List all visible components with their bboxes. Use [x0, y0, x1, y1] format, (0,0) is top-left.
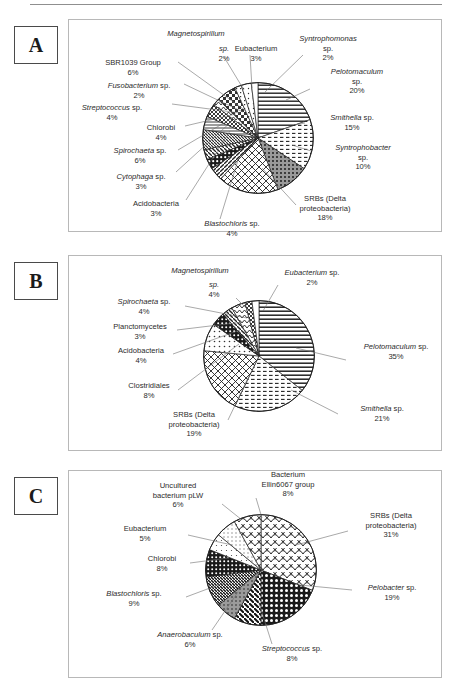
label-eubacterium-b: Eubacterium sp. 2% — [266, 268, 358, 287]
panel-letter-b: B — [14, 262, 58, 300]
label-streptococcus-c: Streptococcus sp. 8% — [240, 644, 344, 663]
label-magnetospirillum-b: Magnetospirillum — [148, 266, 252, 276]
label-srbs-a: SRBs (Delta proteobacteria) 18% — [284, 194, 366, 223]
label-pelotomaculum-a: Pelotomaculum sp. 20% — [308, 67, 406, 96]
label-spirochaeta-a: Spirochaeta sp. 6% — [100, 146, 180, 165]
label-srbs-c: SRBs (Delta proteobacteria) 31% — [344, 511, 438, 540]
label-smithella-a: Smithella sp. 15% — [311, 113, 393, 132]
label-smithella-b: Smithella sp. 21% — [340, 404, 424, 423]
pie-chart-a — [196, 76, 320, 200]
label-fusobacterium-a: Fusobacterium sp. 2% — [92, 81, 186, 100]
label-ellin6067-c: Bacterium Ellin6067 group 8% — [232, 470, 344, 499]
panel-letter-a: A — [14, 26, 58, 64]
label-cytophaga-a: Cytophaga sp. 3% — [104, 172, 178, 191]
label-srbs-b: SRBs (Delta proteobacteria) 19% — [148, 410, 240, 439]
label-syntrophobacter-a: Syntrophobacter sp. 10% — [312, 143, 414, 172]
label-magnetospirillum-b-value: sp. 4% — [196, 280, 232, 299]
label-acidobacteria-a: Acidobacteria 3% — [121, 199, 191, 218]
label-anaerobaculum-c: Anaerobaculum sp. 6% — [138, 630, 242, 649]
label-clostridiales-b: Clostridiales 8% — [112, 381, 186, 400]
label-chlorobi-c: Chlorobi 8% — [134, 554, 190, 573]
label-blastochloris-a: Blastochloris sp. 4% — [188, 219, 276, 238]
label-syntrophomonas-a: Syntrophomonas sp. 2% — [278, 34, 378, 63]
pie-chart-c — [199, 508, 323, 632]
label-pelotomaculum-b: Pelotomaculum sp. 35% — [346, 342, 446, 361]
top-rule — [30, 4, 442, 5]
pie-chart-b — [197, 294, 321, 418]
label-spirochaeta-b: Spirochaeta sp. 4% — [100, 297, 188, 316]
label-sbr1039-a: SBR1039 Group 6% — [85, 58, 181, 77]
label-blastochloris-c: Blastochloris sp. 9% — [86, 589, 182, 608]
panel-letter-c: C — [14, 477, 58, 515]
label-magnetospirillum-a: Magnetospirillum — [146, 29, 246, 39]
label-uncultured-c: Uncultured bacterium pLW 6% — [126, 481, 230, 510]
label-chlorobi-a: Chlorobi 4% — [134, 123, 188, 142]
label-eubacterium-c: Eubacterium 5% — [104, 524, 186, 543]
label-pelobacter-c: Pelobacter sp. 19% — [346, 583, 438, 602]
label-planctomycetes-b: Planctomycetes 3% — [98, 322, 182, 341]
label-streptococcus-a: Streptococcus sp. 4% — [68, 103, 156, 122]
label-acidobacteria-b: Acidobacteria 4% — [104, 346, 178, 365]
